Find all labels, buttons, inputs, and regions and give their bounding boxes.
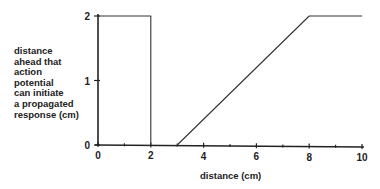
x-tick-label: 8 [306,152,312,163]
chart-plot: 0246810012 [0,0,380,189]
y-tick-label: 1 [84,76,90,87]
x-tick-label: 6 [254,151,260,162]
x-axis-label: distance (cm) [200,170,261,181]
x-tick-label: 2 [148,150,154,161]
y-tick-label: 2 [84,11,90,22]
x-tick-label: 10 [356,152,368,163]
x-tick-label: 4 [201,151,207,162]
data-line-segment-1 [98,16,151,145]
data-line-segment-2 [177,16,362,145]
y-tick-label: 0 [84,140,90,151]
x-tick-label: 0 [95,150,101,161]
